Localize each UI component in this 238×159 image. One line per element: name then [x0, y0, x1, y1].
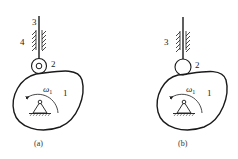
label-omega-b: ω1 [186, 84, 195, 95]
label-follower-a: 3 [32, 17, 37, 27]
label-cam-b: 1 [207, 88, 212, 98]
cam-b [157, 71, 227, 129]
rotation-arrow-b [172, 94, 202, 113]
guide-hatch-right-b [186, 31, 190, 52]
round-tip-b [175, 59, 191, 75]
label-omega-a: ω1 [43, 84, 52, 95]
panel-b: 3 2 1 ω1 (b) [157, 17, 227, 148]
diagram-canvas: 3 4 2 1 ω1 (a) [0, 0, 238, 159]
rotation-arrow-a [28, 94, 58, 113]
pivot-support-b [173, 100, 195, 116]
guide-hatch-left-b [176, 31, 180, 52]
label-guide-a: 4 [20, 37, 25, 47]
pivot-support-a [29, 100, 51, 116]
roller-pin-a [36, 63, 42, 69]
label-roller-a: 2 [51, 59, 56, 69]
label-follower-b: 3 [164, 37, 169, 47]
guide-hatch-left-a [32, 30, 36, 51]
caption-b: (b) [178, 139, 188, 148]
panel-a: 3 4 2 1 ω1 (a) [13, 16, 83, 148]
caption-a: (a) [34, 139, 43, 148]
label-tip-b: 2 [195, 60, 200, 70]
label-cam-a: 1 [63, 88, 68, 98]
guide-hatch-right-a [42, 30, 46, 51]
cam-a [13, 71, 83, 130]
